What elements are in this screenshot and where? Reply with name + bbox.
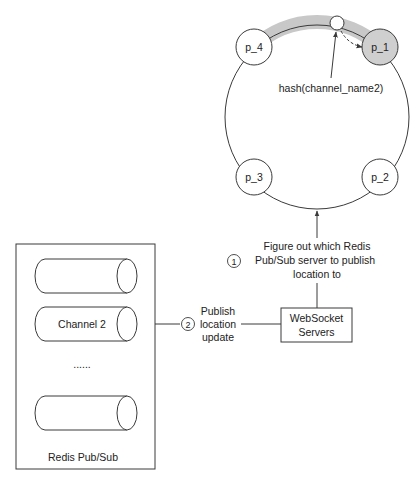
hash-label: hash(channel_name2) [279,82,384,94]
channel-label: Channel 2 [58,318,106,330]
ring-node-p4: p_4 [236,29,272,65]
node-label: p_2 [371,171,389,183]
ring-highlight-band [254,22,380,47]
node-label: p_1 [371,41,389,53]
step-number: 2 [185,320,190,330]
step1-line-3: location to [293,268,341,280]
ring-node-p3: p_3 [236,159,272,195]
hash-point [330,16,344,30]
node-label: p_4 [245,41,263,53]
websocket-line-1: WebSocket [290,312,344,324]
step-number: 1 [231,257,236,267]
websocket-line-2: Servers [298,326,334,338]
hash-pointer-arrow [331,32,336,78]
step1-line-2: Pub/Sub server to publish [255,254,375,266]
architecture-diagram: p_4 p_1 p_3 p_2 hash(channel_name2) 1 Fi… [0,0,416,483]
ring-node-p2: p_2 [362,159,398,195]
redis-pubsub-box: Channel 2 ...... Redis Pub/Sub [16,244,155,469]
more-channels-ellipsis: ...... [73,358,91,370]
step2-line-1: Publish [201,305,236,317]
step1-line-1: Figure out which Redis [264,240,371,252]
hash-ring: p_4 p_1 p_3 p_2 hash(channel_name2) [225,16,409,209]
step2-annotation: 2 Publish location update [182,305,237,343]
redis-title: Redis Pub/Sub [48,451,118,463]
websocket-servers-box: WebSocket Servers [281,308,352,342]
node-label: p_3 [245,171,263,183]
step2-line-2: location [200,318,236,330]
ring-node-p1: p_1 [362,29,398,65]
step2-line-3: update [202,331,234,343]
